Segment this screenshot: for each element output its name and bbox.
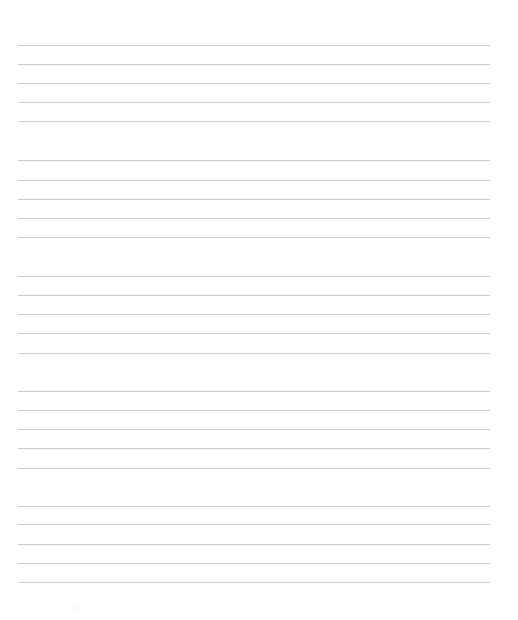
ruled-line [18, 353, 490, 354]
ruled-line [18, 544, 490, 545]
ruled-line [18, 276, 490, 277]
ruled-line [18, 64, 490, 65]
ruled-line [18, 333, 490, 334]
ruled-line [18, 199, 490, 200]
ruled-line [18, 237, 490, 238]
paper-speck [76, 607, 78, 609]
ruled-line [18, 160, 490, 161]
ruled-line [18, 45, 490, 46]
ruled-line [18, 295, 490, 296]
ruled-line [18, 410, 490, 411]
ruled-line [18, 102, 490, 103]
ruled-line [18, 180, 490, 181]
ruled-line [18, 563, 490, 564]
ruled-line [18, 218, 490, 219]
ruled-line [18, 524, 490, 525]
ruled-line [18, 448, 490, 449]
ruled-line [18, 582, 490, 583]
ruled-line [18, 506, 490, 507]
ruled-line [18, 468, 490, 469]
ruled-line [18, 429, 490, 430]
lined-page [0, 0, 518, 620]
ruled-line [18, 121, 490, 122]
ruled-line [18, 314, 490, 315]
ruled-line [18, 83, 490, 84]
ruled-line [18, 391, 490, 392]
